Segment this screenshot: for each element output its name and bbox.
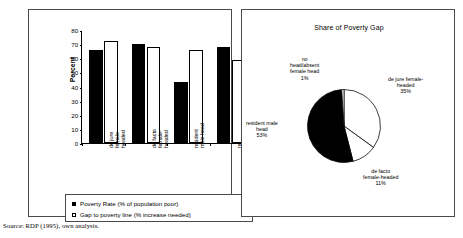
pie-slice-label: de jure female-headed35% — [388, 76, 423, 95]
pie-slice-label-line: 35% — [388, 88, 423, 94]
pie-slice-label-line: 1% — [290, 75, 319, 81]
bar — [174, 82, 188, 143]
y-tick-label: 70 — [71, 42, 78, 48]
x-axis-label: residentmale head — [193, 123, 205, 148]
x-axis-label-line: headed — [121, 130, 127, 148]
y-tick-label: 60 — [71, 56, 78, 62]
y-tick-mark — [80, 45, 83, 46]
y-tick-label: 0 — [75, 141, 78, 147]
pie-wrap — [306, 88, 382, 164]
legend-label: Poverty Rate (% of population poor) — [80, 200, 178, 207]
pie-slice-label-line: 11% — [363, 180, 398, 186]
pie-slice-label: de factofemale-headed11% — [363, 168, 398, 187]
pie-chart-panel: Share of Poverty Gap nohead/absentfemale… — [241, 9, 455, 217]
x-axis-label-line: female- — [157, 129, 163, 148]
source-note: Source: RDP (1995), own analysis. — [3, 222, 99, 229]
figure-root: Percent 01020304050607080 de jurefemale-… — [0, 0, 463, 238]
legend-swatch — [72, 202, 76, 206]
y-tick-mark — [80, 130, 83, 131]
pie-slice-label: nohead/absentfemale head1% — [290, 56, 319, 81]
pie-chart-title: Share of Poverty Gap — [242, 24, 456, 31]
bar — [132, 44, 146, 143]
bar-plot-area: 01020304050607080 de jurefemale-headedde… — [81, 31, 251, 144]
legend-swatch — [72, 213, 76, 217]
y-tick-label: 40 — [71, 84, 78, 90]
y-tick-label: 80 — [71, 28, 78, 34]
x-tick-mark — [210, 143, 211, 146]
bar-chart-legend: Poverty Rate (% of population poor)Gap t… — [65, 194, 253, 222]
y-tick-mark — [80, 116, 83, 117]
legend-label: Gap to poverty line (% increase needed) — [80, 211, 191, 218]
x-tick-mark — [82, 143, 83, 146]
y-tick-label: 20 — [71, 113, 78, 119]
y-tick-label: 10 — [71, 127, 78, 133]
y-tick-mark — [80, 88, 83, 89]
bar-group — [132, 31, 161, 143]
y-tick-label: 30 — [71, 99, 78, 105]
pie-slice-label-line: female head — [290, 68, 319, 74]
bar — [217, 47, 231, 143]
legend-item: Gap to poverty line (% increase needed) — [72, 209, 252, 220]
pie-graphic — [306, 88, 382, 164]
pie-slice-label: resident malehead53% — [246, 120, 278, 139]
x-axis-label-line: de facto — [151, 129, 157, 148]
x-axis-label-line: headed — [163, 129, 169, 148]
pie-slice-label-line: 53% — [246, 132, 278, 138]
y-tick-mark — [80, 73, 83, 74]
y-tick-mark — [80, 59, 83, 60]
x-axis-label-line: male head — [199, 123, 205, 148]
y-tick-mark — [80, 31, 83, 32]
y-tick-mark — [80, 102, 83, 103]
bar-chart-panel: Percent 01020304050607080 de jurefemale-… — [28, 9, 232, 217]
bar — [89, 50, 103, 143]
y-tick-label: 50 — [71, 70, 78, 76]
x-axis-label: de jurefemale-headed — [108, 130, 127, 148]
x-axis-label: de factofemale-headed — [151, 129, 170, 148]
bar-group — [89, 31, 118, 143]
bar — [104, 41, 118, 143]
legend-item: Poverty Rate (% of population poor) — [72, 198, 252, 209]
